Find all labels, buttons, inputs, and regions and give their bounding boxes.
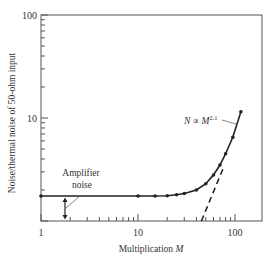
x-tick-label: 10	[133, 227, 143, 238]
data-markers	[39, 110, 242, 198]
data-point	[231, 135, 235, 139]
data-point	[218, 163, 222, 167]
data-point	[224, 152, 228, 156]
x-tick-label: 100	[228, 227, 243, 238]
data-point	[204, 182, 208, 186]
data-point	[212, 173, 216, 177]
data-point	[195, 188, 199, 192]
noise-vs-multiplication-chart: 1 10 100 100 10 Multiplication M Noise/t…	[0, 0, 272, 259]
y-tick-label: 100	[22, 10, 37, 21]
y-axis-ticks	[41, 15, 48, 221]
x-axis-title: Multiplication M	[119, 244, 185, 254]
data-point	[175, 193, 179, 197]
data-point	[136, 194, 140, 198]
amplifier-noise-arrow	[63, 198, 68, 220]
amplifier-noise-label: Amplifier	[62, 168, 100, 178]
plot-frame	[41, 15, 262, 221]
data-point	[165, 194, 169, 198]
amplifier-noise-leader	[66, 196, 80, 208]
data-point	[153, 194, 157, 198]
power-law-leader	[222, 120, 236, 124]
amplifier-noise-label: noise	[72, 180, 92, 190]
x-tick-label: 1	[39, 227, 44, 238]
y-axis-title: Noise/thermal noise of 50-ohm input	[7, 52, 17, 193]
y-tick-label: 10	[27, 113, 37, 124]
power-law-label: N ∝ M2.1	[183, 114, 218, 126]
data-point	[182, 192, 186, 196]
data-point	[39, 194, 43, 198]
data-point	[239, 110, 243, 114]
x-axis-ticks	[41, 214, 235, 221]
